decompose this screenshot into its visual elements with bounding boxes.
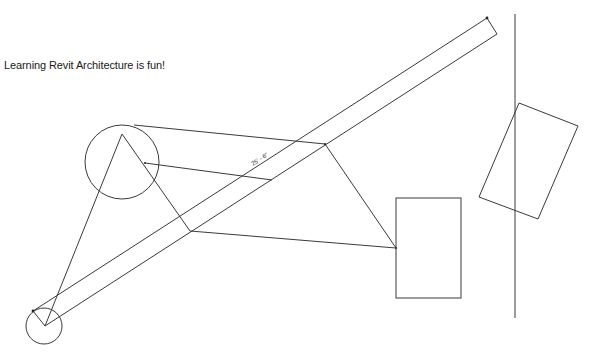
- wall-endpoint-grip-left[interactable]: [32, 310, 35, 313]
- vertex-point: [144, 162, 146, 164]
- wall-endpoint-grip-right[interactable]: [486, 17, 489, 20]
- sketch-line[interactable]: [190, 231, 396, 248]
- sketch-line[interactable]: [45, 134, 122, 326]
- vertex-point: [324, 143, 326, 145]
- drawing-svg: 25' - 6": [0, 0, 598, 359]
- sketch-line[interactable]: [325, 144, 396, 248]
- small-circle[interactable]: [26, 308, 62, 344]
- sketch-lines[interactable]: [45, 125, 397, 326]
- sketch-line-tangent[interactable]: [134, 125, 325, 144]
- rectangle[interactable]: [396, 198, 461, 298]
- rotated-rectangle[interactable]: [479, 103, 578, 219]
- wall-end-left: [33, 311, 45, 326]
- wall-end-right: [487, 18, 497, 34]
- drawing-canvas[interactable]: Learning Revit Architecture is fun! 25' …: [0, 0, 598, 359]
- wall-band[interactable]: [32, 17, 497, 326]
- large-circle[interactable]: [85, 125, 159, 199]
- wall-line-upper[interactable]: [33, 18, 487, 311]
